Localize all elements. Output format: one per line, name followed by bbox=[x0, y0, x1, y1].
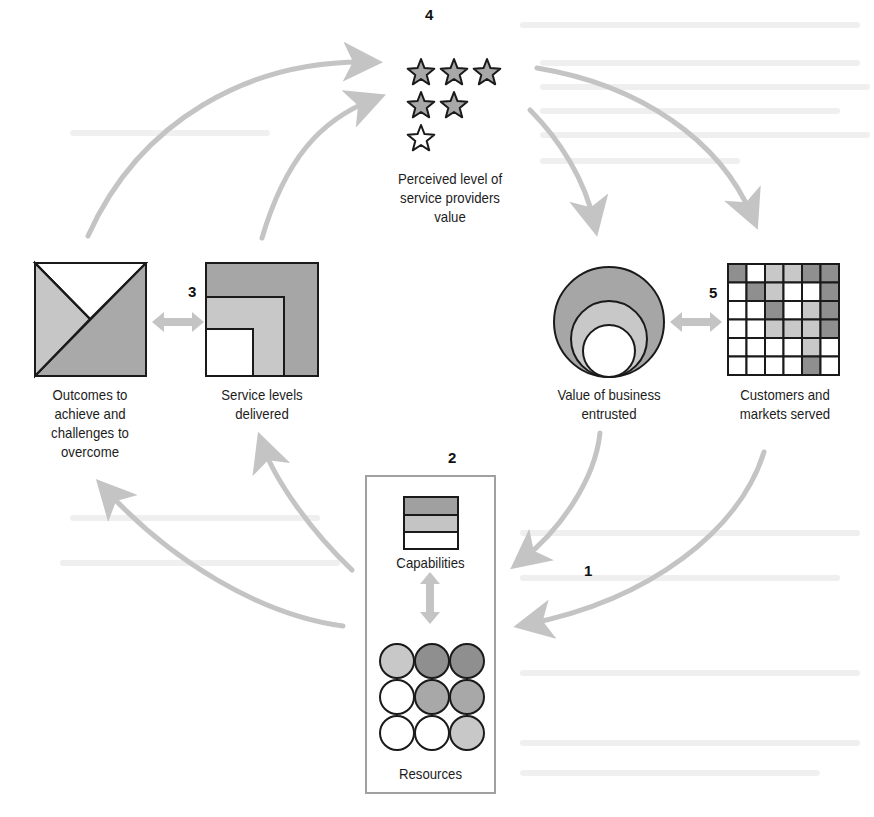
grid-cell bbox=[747, 338, 766, 357]
grid-cell bbox=[728, 283, 747, 302]
grid-cell bbox=[765, 320, 784, 339]
grid-cell bbox=[802, 264, 821, 283]
grid-cell bbox=[728, 301, 747, 320]
grid-cell bbox=[784, 320, 803, 339]
star-filled-icon bbox=[408, 92, 435, 117]
grid-cell bbox=[747, 264, 766, 283]
nested-circles-icon bbox=[554, 267, 664, 377]
grid-cell bbox=[784, 338, 803, 357]
grid-cell bbox=[747, 320, 766, 339]
label-outcomes: Outcomes to achieve and challenges to ov… bbox=[20, 385, 161, 461]
grid-cell bbox=[821, 338, 840, 357]
grid-cell bbox=[728, 320, 747, 339]
grid-cell bbox=[802, 283, 821, 302]
grid-cell bbox=[802, 357, 821, 376]
double-arrow-outcomes-service bbox=[152, 312, 204, 332]
grid-cell bbox=[765, 338, 784, 357]
split-square-icon bbox=[35, 263, 146, 376]
double-arrow-business-customers bbox=[670, 312, 722, 332]
grid-cell bbox=[784, 301, 803, 320]
star-filled-icon bbox=[408, 59, 435, 84]
step-number-1: 1 bbox=[584, 562, 592, 579]
label-business-value: Value of business entrusted bbox=[539, 385, 680, 423]
grid-cell bbox=[747, 283, 766, 302]
grid-cell bbox=[802, 320, 821, 339]
grid-cell bbox=[747, 301, 766, 320]
grid-cell bbox=[802, 301, 821, 320]
star-filled-icon bbox=[441, 92, 468, 117]
grid-cell bbox=[728, 338, 747, 357]
resource-circle bbox=[380, 680, 414, 714]
label-capabilities: Capabilities bbox=[374, 553, 488, 572]
grid-cell bbox=[784, 264, 803, 283]
arrow-customers-to-resources bbox=[528, 452, 764, 624]
step-number-2: 2 bbox=[448, 449, 456, 466]
step-number-3: 3 bbox=[188, 283, 196, 300]
arrow-resources-to-outcomes bbox=[106, 490, 343, 626]
stacked-layers-icon bbox=[404, 497, 458, 549]
resource-circle bbox=[380, 716, 414, 750]
service-value-diagram: 4 3 5 2 1 Perceived level of service pro… bbox=[0, 0, 874, 817]
grid-cell bbox=[784, 357, 803, 376]
label-resources: Resources bbox=[374, 764, 488, 783]
grid-cell bbox=[765, 264, 784, 283]
grid-cell bbox=[765, 301, 784, 320]
grid-cell bbox=[765, 357, 784, 376]
grid-cell bbox=[728, 264, 747, 283]
grid-cell bbox=[821, 283, 840, 302]
resource-circle bbox=[415, 716, 449, 750]
resource-circle bbox=[415, 644, 449, 678]
grid-cell bbox=[728, 357, 747, 376]
nested-squares-icon bbox=[206, 263, 318, 376]
star-rating-icon bbox=[408, 59, 501, 150]
arrow-value-to-customers bbox=[537, 68, 752, 216]
resource-circle bbox=[450, 716, 484, 750]
arrow-service-to-value bbox=[262, 100, 372, 238]
resource-circle bbox=[450, 680, 484, 714]
arrow-capabilities-to-service bbox=[263, 446, 352, 570]
star-empty-icon bbox=[408, 125, 435, 150]
label-service-levels: Service levels delivered bbox=[192, 385, 333, 423]
grid-cell bbox=[821, 264, 840, 283]
grid-cell bbox=[802, 338, 821, 357]
arrow-business-to-capabilities bbox=[522, 433, 600, 560]
grid-cell bbox=[747, 357, 766, 376]
label-perceived-value: Perceived level of service providers val… bbox=[371, 169, 529, 226]
star-filled-icon bbox=[441, 59, 468, 84]
arrow-value-to-business bbox=[530, 110, 594, 222]
resource-circle bbox=[450, 644, 484, 678]
step-number-5: 5 bbox=[709, 284, 717, 301]
resource-circle bbox=[380, 644, 414, 678]
arrow-outcomes-to-value bbox=[88, 62, 368, 236]
grid-cell bbox=[784, 283, 803, 302]
grid-cell bbox=[821, 357, 840, 376]
grid-matrix-icon bbox=[728, 264, 839, 375]
resource-circle bbox=[415, 680, 449, 714]
grid-cell bbox=[821, 320, 840, 339]
step-number-4: 4 bbox=[425, 6, 433, 23]
double-arrow-capabilities-resources bbox=[420, 572, 440, 624]
grid-cell bbox=[821, 301, 840, 320]
circle-grid-icon bbox=[380, 644, 484, 750]
grid-cell bbox=[765, 283, 784, 302]
label-customers: Customers and markets served bbox=[715, 385, 856, 423]
star-filled-icon bbox=[474, 59, 501, 84]
